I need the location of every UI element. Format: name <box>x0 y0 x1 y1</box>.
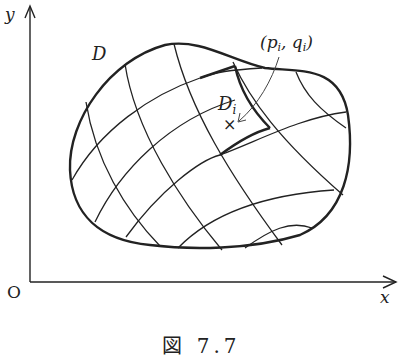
point-label-close: ) <box>305 32 313 52</box>
region-D-label: D <box>91 43 107 64</box>
point-marker: × <box>223 115 236 134</box>
point-label-q: , q <box>281 32 303 52</box>
point-pq-label: (pi, qi) <box>260 32 313 54</box>
subregion-Di-label: Di <box>217 93 236 117</box>
origin-label: O <box>7 282 21 302</box>
y-axis-label: y <box>4 4 15 24</box>
subregion-Di-main: D <box>217 93 233 114</box>
x-axis-label: x <box>380 287 390 307</box>
figure-caption: 図 7.7 <box>0 330 403 359</box>
grid-family-2 <box>72 68 346 248</box>
subregion-Di-subscript: i <box>232 103 236 117</box>
point-label-p: (p <box>260 32 278 52</box>
